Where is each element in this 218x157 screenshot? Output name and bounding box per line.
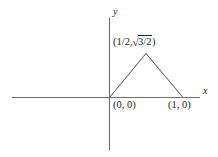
- y-axis-label: y: [113, 7, 117, 17]
- coordinate-plane-figure: y x (1/2,√3/2) (0, 0) (1, 0): [0, 0, 218, 157]
- origin-point-label: (0, 0): [113, 100, 136, 111]
- apex-label-close: ): [152, 36, 156, 47]
- radicand-value: 3/2: [138, 35, 152, 47]
- triangle-outline: [110, 54, 184, 98]
- apex-label-open: (1/2,: [113, 36, 133, 47]
- apex-point-label: (1/2,√3/2): [113, 35, 156, 48]
- x-axis-label: x: [203, 86, 207, 96]
- radical-sign-icon: √: [133, 36, 139, 48]
- square-root-glyph: √3/2: [133, 35, 152, 48]
- axes-and-triangle-graphic: [0, 0, 218, 157]
- right-vertex-point-label: (1, 0): [168, 100, 191, 111]
